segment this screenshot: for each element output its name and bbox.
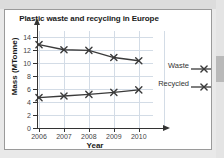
legend-item-waste[interactable]: Waste bbox=[157, 56, 212, 74]
legend-marker-icon bbox=[191, 78, 212, 88]
legend-label: Waste bbox=[168, 61, 189, 70]
legend-marker-icon bbox=[191, 60, 212, 70]
chart-legend: WasteRecycled bbox=[157, 56, 212, 92]
page-top-strip bbox=[0, 0, 224, 9]
chart-card: Plastic waste and recycling in Europe 02… bbox=[4, 9, 212, 150]
series-line-waste bbox=[39, 45, 139, 61]
legend-item-recycled[interactable]: Recycled bbox=[157, 74, 212, 92]
legend-label: Recycled bbox=[158, 79, 189, 88]
x-axis-label: Year bbox=[37, 141, 153, 150]
page-root: Plastic waste and recycling in Europe 02… bbox=[0, 0, 224, 158]
y-axis-label: Mass (MTonne) bbox=[10, 36, 19, 98]
page-right-scroll-marker bbox=[216, 56, 224, 82]
